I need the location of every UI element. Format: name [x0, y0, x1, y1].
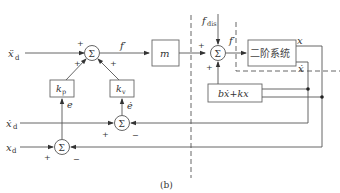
svg-text:ẍ: ẍ	[8, 48, 14, 59]
figure-caption: (b)	[160, 180, 173, 190]
signal-error: e	[67, 99, 73, 110]
signal-out-x: x	[297, 35, 303, 46]
svg-text:Σ: Σ	[119, 119, 125, 129]
sign-plant-bottom: +	[206, 63, 213, 72]
sign-main-left: +	[74, 59, 81, 68]
input-vel-desired: ẋ d	[6, 118, 18, 131]
signal-out-xdot: ẋ	[298, 63, 304, 74]
svg-text:Σ: Σ	[215, 49, 221, 59]
sign-main-right: +	[110, 59, 117, 68]
block-plant-label: 二阶系统	[250, 47, 290, 59]
sum-junction-vel: Σ	[115, 116, 130, 131]
sum-junction-plant: Σ	[211, 46, 226, 61]
sign-vel-plus: +	[102, 130, 109, 139]
svg-text:d: d	[13, 123, 18, 131]
svg-text:v: v	[121, 88, 126, 96]
sign-main-top: +	[77, 39, 84, 48]
sign-pos-minus: −	[73, 155, 80, 164]
svg-text:p: p	[62, 88, 66, 96]
svg-text:d: d	[15, 54, 20, 62]
block-mass-label: m	[160, 48, 169, 59]
sign-plant-left: +	[198, 41, 205, 50]
sign-vel-minus: −	[132, 131, 139, 140]
svg-text:Σ: Σ	[59, 143, 65, 153]
sign-pos-plus: +	[44, 153, 51, 162]
svg-text:ẋ: ẋ	[6, 118, 12, 129]
sum-junction-pos: Σ	[55, 140, 70, 155]
input-pos-desired: x d	[6, 142, 17, 155]
signal-f-prime-2: f′	[228, 35, 236, 46]
signal-f-prime-1: f′	[119, 40, 127, 51]
block-feedback-label: bẋ+kx	[218, 88, 249, 99]
sum-junction-main: Σ	[85, 46, 100, 61]
signal-f-dis: f dis	[201, 15, 217, 28]
line-out-x	[296, 46, 322, 147]
signal-error-dot: ė	[127, 100, 133, 111]
input-accel-desired: ẍ d	[8, 48, 20, 62]
junction-dot-xdot	[306, 87, 310, 91]
svg-text:Σ: Σ	[89, 49, 95, 59]
svg-text:d: d	[12, 147, 17, 155]
svg-text:dis: dis	[207, 20, 217, 28]
junction-dot-x	[320, 95, 324, 99]
control-block-diagram: ẍ d + Σ f′ m + f dis Σ + f′ 二阶系统 x ẋ bẋ+…	[0, 0, 340, 193]
